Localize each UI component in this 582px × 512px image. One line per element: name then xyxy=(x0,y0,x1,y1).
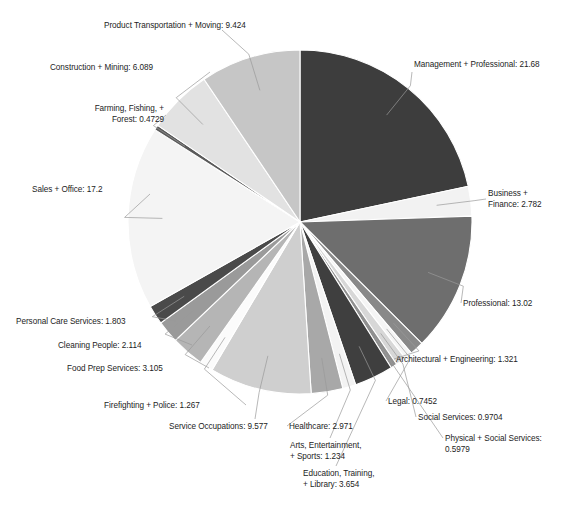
slice-label-firefighting-police: Firefighting + Police: 1.267 xyxy=(104,400,248,411)
slice-label-legal: Legal: 0.7452 xyxy=(388,396,508,407)
slice-label-management-professional: Management + Professional: 21.68 xyxy=(414,59,582,70)
slice-label-physical-social-services: Physical + Social Services: 0.5979 xyxy=(445,433,582,455)
slice-label-social-services: Social Services: 0.9704 xyxy=(418,412,568,423)
pie-chart-figure: Management + Professional: 21.68 Busines… xyxy=(0,0,582,512)
slice-label-food-prep-services: Food Prep Services: 3.105 xyxy=(67,363,211,374)
slice-label-sales-office: Sales + Office: 17.2 xyxy=(32,184,148,195)
slice-label-personal-care-services: Personal Care Services: 1.803 xyxy=(16,316,176,327)
slice-label-education-training-library: Education, Training, + Library: 3.654 xyxy=(303,468,425,490)
slice-label-business-finance: Business + Finance: 2.782 xyxy=(488,188,580,210)
slice-label-cleaning-people: Cleaning People: 2.114 xyxy=(58,340,192,351)
slice-label-service-occupations: Service Occupations: 9.577 xyxy=(169,421,313,432)
slice-label-product-transportation-moving: Product Transportation + Moving: 9.424 xyxy=(104,20,320,31)
slice-label-farming-fishing-forest: Farming, Fishing, + Forest: 0.4729 xyxy=(36,103,164,125)
slice-label-architectural-engineering: Architectural + Engineering: 1.321 xyxy=(396,354,582,365)
slice-label-professional: Professional: 13.02 xyxy=(463,298,581,309)
slice-label-construction-mining: Construction + Mining: 6.089 xyxy=(50,62,210,73)
slice-label-arts-entertainment-sports: Arts, Entertainment, + Sports: 1.234 xyxy=(290,440,406,462)
